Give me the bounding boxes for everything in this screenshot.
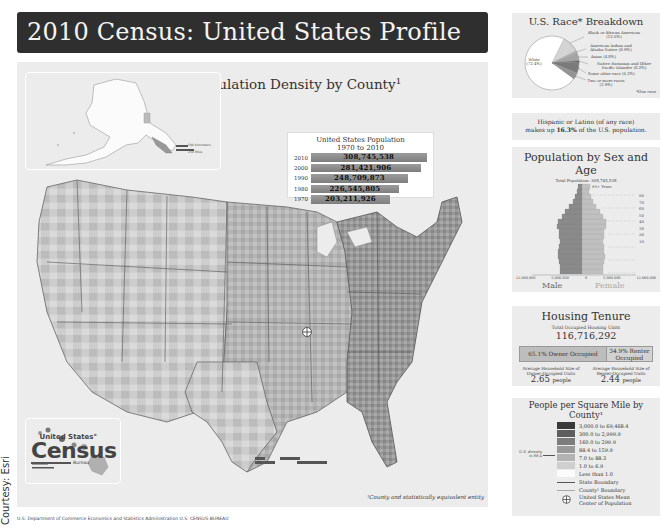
pop-year: 1980 bbox=[294, 186, 311, 192]
pop-row-1970: 1970 203,211,926 bbox=[294, 195, 427, 204]
pop-box-subtitle: 1970 to 2010 bbox=[294, 144, 427, 152]
mean-center-icon bbox=[557, 495, 575, 504]
age-x-ticks: 12,000,0006,000,00006,000,00012,000,000 bbox=[516, 276, 656, 280]
legend-swatch bbox=[557, 454, 575, 461]
legend-county-boundary: County¹ Boundary bbox=[557, 487, 625, 493]
population-density-map: Population Density by County¹ 500 Kilome… bbox=[17, 62, 488, 507]
housing-total: 116,716,292 bbox=[512, 330, 660, 341]
race-breakdown-panel: U.S. Race* Breakdown White(72.4%) Black … bbox=[512, 13, 660, 98]
male-label: Male bbox=[542, 281, 562, 290]
density-pointer bbox=[543, 455, 555, 456]
pop-row-2000: 2000 281,421,906 bbox=[294, 163, 427, 172]
density-legend-panel: People per Square Mile by County¹ U.S. d… bbox=[512, 398, 660, 516]
legend-class-7: Less than 1.0 bbox=[557, 470, 613, 477]
owner-household-size: Average Household Size of Owner-Occupied… bbox=[518, 366, 584, 383]
census-profile-page: 2010 Census: United States Profile Popul… bbox=[0, 0, 663, 528]
owner-occupied-segment: 65.1% Owner Occupied bbox=[520, 347, 606, 361]
county-line-icon bbox=[557, 490, 575, 491]
legend-swatch bbox=[557, 430, 575, 437]
legend-class-3: 160.0 to 299.9 bbox=[557, 438, 616, 445]
age-pyramid-chart bbox=[512, 147, 660, 292]
race-label-nhpi: Native Hawaiian and OtherPacific Islande… bbox=[594, 62, 654, 71]
age-tick-labels: 8070605040302010 bbox=[639, 193, 644, 245]
hispanic-pct: 16.3% bbox=[556, 126, 576, 133]
renter-household-size: Average Household Size of Renter-Occupie… bbox=[588, 366, 654, 383]
sex-age-panel: Population by Sex and Age Total Populati… bbox=[512, 147, 660, 292]
mean-center-marker bbox=[303, 328, 312, 337]
pop-bar: 248,709,873 bbox=[311, 174, 408, 183]
hispanic-panel: Hispanic or Latino (of any race) makes u… bbox=[512, 113, 660, 140]
legend-title: People per Square Mile by County¹ bbox=[512, 398, 660, 420]
legend-swatch bbox=[557, 470, 575, 477]
race-label-two: Two or more races(2.9%) bbox=[586, 79, 626, 88]
housing-tenure-panel: Housing Tenure Total Occupied Housing Un… bbox=[512, 306, 660, 386]
pop-row-2010: 2010 308,745,538 bbox=[294, 153, 427, 162]
legend-mean-center: United States Mean Center of Population bbox=[557, 495, 639, 506]
housing-title: Housing Tenure bbox=[512, 306, 660, 323]
household-size-stats: Average Household Size of Owner-Occupied… bbox=[512, 362, 660, 383]
pop-box-title: United States Population bbox=[294, 136, 427, 144]
pop-row-1980: 1980 226,545,805 bbox=[294, 184, 427, 193]
logo-main-text: Census bbox=[31, 441, 101, 460]
credit-line: U.S. Department of Commerce Economics an… bbox=[17, 516, 229, 521]
pop-row-1990: 1990 248,709,873 bbox=[294, 174, 427, 183]
pop-year: 2010 bbox=[294, 155, 311, 161]
legend-class-2: 300.0 to 2,999.9 bbox=[557, 430, 621, 437]
legend-class-1: 3,000.0 to 69,468.4 bbox=[557, 422, 629, 429]
hispanic-line2: makes up 16.3% of the U.S. population. bbox=[512, 126, 660, 134]
race-label-black: Black or African American(12.6%) bbox=[584, 31, 644, 40]
pop-year: 2000 bbox=[294, 165, 311, 171]
page-title: 2010 Census: United States Profile bbox=[17, 12, 488, 53]
legend-swatch bbox=[557, 422, 575, 429]
legend-swatch bbox=[557, 446, 575, 453]
legend-state-boundary: State Boundary bbox=[557, 479, 619, 485]
us-population-box: United States Population 1970 to 2010 20… bbox=[287, 132, 434, 198]
legend-swatch bbox=[557, 462, 575, 469]
us-density-note: U.S. density is 88.4 bbox=[516, 450, 542, 458]
pop-year: 1970 bbox=[294, 196, 311, 202]
age-top-label: 85+ Years bbox=[592, 184, 612, 189]
hispanic-line1: Hispanic or Latino (of any race) bbox=[512, 118, 660, 126]
legend-class-4: 88.4 to 159.9 bbox=[557, 446, 613, 453]
legend-class-5: 7.0 to 88.3 bbox=[557, 454, 606, 461]
female-label: Female bbox=[595, 281, 625, 290]
pop-bar: 226,545,805 bbox=[311, 185, 399, 194]
state-line-icon bbox=[557, 482, 575, 483]
pop-bar: 281,421,906 bbox=[311, 164, 421, 173]
courtesy-text: Courtesy: Esri bbox=[0, 456, 11, 525]
map-footnote: ¹County and statistically equivalent ent… bbox=[367, 494, 484, 500]
legend-swatch bbox=[557, 438, 575, 445]
race-label-other: Some other race (6.2%) bbox=[588, 72, 635, 76]
logo-bureau-text: Bureau bbox=[73, 460, 89, 465]
tenure-bar: 65.1% Owner Occupied 34.9% Renter Occupi… bbox=[519, 346, 653, 362]
census-bureau-logo: United States° Census Bureau bbox=[31, 433, 101, 465]
race-label-asian: Asian (4.8%) bbox=[591, 55, 616, 59]
renter-occupied-segment: 34.9% Renter Occupied bbox=[606, 347, 652, 361]
pop-year: 1990 bbox=[294, 175, 311, 181]
legend-class-6: 1.0 to 6.9 bbox=[557, 462, 603, 469]
race-label-white: White(72.4%) bbox=[524, 58, 544, 67]
pop-bar: 203,211,926 bbox=[311, 195, 390, 204]
race-footnote: *One race bbox=[636, 90, 656, 94]
race-label-amind: American Indian andAlaska Native (0.9%) bbox=[586, 44, 636, 53]
pop-bar: 308,745,538 bbox=[311, 153, 428, 162]
